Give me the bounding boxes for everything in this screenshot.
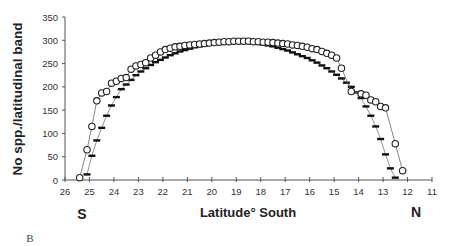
y-tick-label: 150 [42,105,58,116]
x-tick-label: 12 [402,186,413,197]
x-tick-label: 13 [378,186,389,197]
dash-marker [318,64,325,66]
dash-marker [142,67,149,69]
dash-marker [108,104,115,106]
dash-marker [392,176,399,178]
dash-marker [113,96,120,98]
dash-marker [362,105,369,107]
dash-marker [328,70,335,72]
x-tick-label: 22 [158,186,169,197]
x-tick-label: 26 [60,186,71,197]
x-tick-label: 21 [182,186,193,197]
dash-marker [304,57,311,59]
circle-marker [338,65,344,71]
x-tick-label: 18 [255,186,266,197]
species-richness-chart: 0501001502002503003502625242322212019181… [0,0,456,246]
x-tick-label: 17 [280,186,291,197]
x-tick-label: 25 [84,186,95,197]
circle-marker [333,55,339,61]
dash-marker [343,81,350,83]
x-tick-label: 19 [231,186,242,197]
circle-marker [382,105,388,111]
circle-marker [103,88,109,94]
dash-marker [387,167,394,169]
dash-marker [323,67,330,69]
south-label: S [77,206,86,222]
dash-marker [382,153,389,155]
y-tick-label: 100 [42,128,58,139]
dash-marker [103,115,110,117]
dash-marker [98,127,105,129]
x-tick-label: 20 [207,186,218,197]
y-tick-label: 350 [42,12,58,23]
dash-marker [93,139,100,141]
dash-marker [157,59,164,61]
x-tick-label: 11 [427,186,437,197]
north-label: N [411,204,421,220]
x-tick-label: 24 [109,186,120,197]
circle-marker [84,147,90,153]
dash-marker [372,125,379,127]
dash-marker [333,74,340,76]
dash-marker [309,59,316,61]
x-axis-title: Latitude° South [200,205,296,220]
circle-marker [89,123,95,129]
dash-marker [118,88,125,90]
y-tick-label: 300 [42,35,58,46]
x-tick-label: 23 [133,186,144,197]
circle-marker [76,174,82,180]
dash-marker [162,56,169,58]
circle-marker [123,74,129,80]
circle-marker [348,88,354,94]
dash-marker [88,155,95,157]
x-tick-label: 16 [304,186,315,197]
y-tick-label: 250 [42,58,58,69]
y-tick-label: 50 [47,151,58,162]
circle-marker [94,98,100,104]
dash-marker [132,74,139,76]
series-predicted [84,40,399,178]
dash-marker [123,83,130,85]
x-tick-label: 14 [353,186,364,197]
y-axis-title: No spp./latitudinal band [10,23,25,176]
y-tick-label: 0 [53,175,58,186]
x-tick-label: 15 [329,186,340,197]
dash-marker [137,70,144,72]
dash-marker [377,138,384,140]
dash-marker [314,61,321,63]
dash-marker [338,77,345,79]
circle-marker [399,167,405,173]
circle-marker [392,140,398,146]
series-observed [76,38,405,181]
dash-marker [367,115,374,117]
dash-marker [84,173,91,175]
dash-marker [152,61,159,63]
y-tick-label: 200 [42,81,58,92]
panel-label: B [26,232,33,244]
